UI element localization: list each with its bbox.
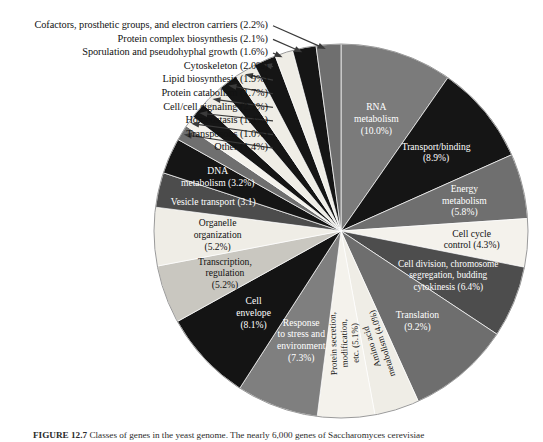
callout-arrow-line [273, 26, 320, 47]
pie-chart: RNAmetabolism(10.0%)Transport/binding(8.… [0, 0, 543, 442]
figure-caption: FIGURE 12.7 Classes of genes in the yeas… [33, 430, 523, 442]
figure-root: RNAmetabolism(10.0%)Transport/binding(8.… [0, 0, 543, 442]
figure-caption-label: FIGURE 12.7 [33, 430, 87, 440]
slice-label: Vesicle transport (3.1) [171, 196, 256, 208]
callout-arrow-line [273, 39, 297, 49]
figure-caption-text: Classes of genes in the yeast genome. Th… [89, 430, 424, 440]
